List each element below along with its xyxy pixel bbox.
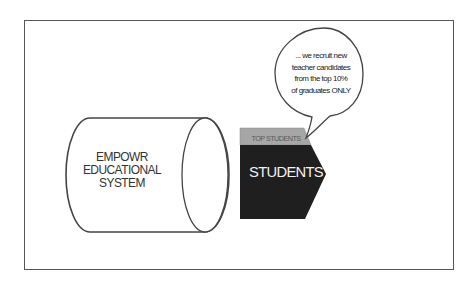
bubble-line: ... we recruit new <box>285 50 357 62</box>
diagram-graphics <box>0 0 476 285</box>
students-label: STUDENTS <box>248 163 324 181</box>
cylinder-label: EMPOWR EDUCATIONAL SYSTEM <box>76 150 168 189</box>
top-students-label: TOP STUDENTS <box>243 134 309 143</box>
cylinder-label-line: SYSTEM <box>76 176 168 189</box>
bubble-line: from the top 10% <box>285 73 357 85</box>
bubble-line: of graduates ONLY <box>285 85 357 97</box>
speech-bubble-text: ... we recruit new teacher candidates fr… <box>285 50 357 96</box>
bubble-line: teacher candidates <box>285 62 357 74</box>
